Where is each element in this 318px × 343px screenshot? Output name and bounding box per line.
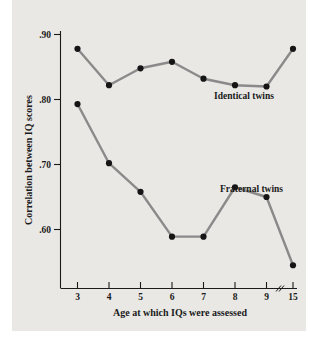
data-point xyxy=(106,160,112,166)
chart-canvas: .90 .80 .70 .60 3 4 5 6 7 8 xyxy=(0,0,318,343)
series-label-fraternal-twins: Fraternal twins xyxy=(220,184,283,194)
x-axis-title: Age at which IQs were assessed xyxy=(113,307,247,318)
data-point xyxy=(74,101,80,107)
data-point xyxy=(137,65,143,71)
data-point xyxy=(263,194,269,200)
data-point xyxy=(232,82,238,88)
x-tick-label-6: 6 xyxy=(170,292,175,302)
y-tick-label-90: .90 xyxy=(39,30,51,40)
series-identical-twins xyxy=(74,46,296,90)
data-point xyxy=(290,46,296,52)
x-axis-ticks xyxy=(78,282,294,289)
x-tick-label-15: 15 xyxy=(288,292,298,302)
data-point xyxy=(290,262,296,268)
y-axis-title: Correlation between IQ scores xyxy=(23,95,34,225)
x-tick-label-4: 4 xyxy=(107,292,112,302)
data-point xyxy=(137,189,143,195)
x-tick-label-8: 8 xyxy=(233,292,238,302)
y-axis-ticks xyxy=(54,35,61,230)
chart-figure: .90 .80 .70 .60 3 4 5 6 7 8 xyxy=(0,0,318,343)
data-point xyxy=(263,83,269,89)
data-point xyxy=(200,76,206,82)
data-point xyxy=(169,59,175,65)
y-tick-label-60: .60 xyxy=(39,225,51,235)
series-label-identical-twins: Identical twins xyxy=(214,91,274,101)
x-tick-label-9: 9 xyxy=(264,292,269,302)
y-axis-tick-labels: .90 .80 .70 .60 xyxy=(39,30,51,235)
x-tick-label-5: 5 xyxy=(138,292,143,302)
data-point xyxy=(74,46,80,52)
x-axis-tick-labels: 3 4 5 6 7 8 9 15 xyxy=(75,292,298,302)
data-point xyxy=(169,234,175,240)
x-tick-label-3: 3 xyxy=(75,292,80,302)
y-tick-label-70: .70 xyxy=(39,160,51,170)
x-tick-label-7: 7 xyxy=(201,292,206,302)
data-point xyxy=(200,234,206,240)
y-tick-label-80: .80 xyxy=(39,95,51,105)
data-point xyxy=(106,82,112,88)
series-line xyxy=(78,49,294,87)
